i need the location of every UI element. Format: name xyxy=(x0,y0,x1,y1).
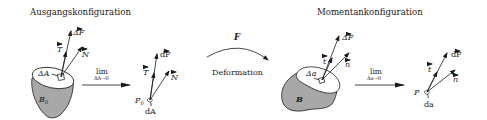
label-delta-a: Δa xyxy=(305,69,317,78)
traction-vector-T-point xyxy=(150,73,154,100)
label-P: P xyxy=(413,88,420,97)
reference-point xyxy=(147,98,152,106)
normal-vector-N-point xyxy=(150,71,169,100)
title-reference-configuration: Ausgangskonfiguration xyxy=(29,7,132,17)
label-t: t xyxy=(323,57,327,66)
label-deformation: Deformation xyxy=(212,68,263,77)
label-n: n xyxy=(345,60,350,69)
limit-subscript-reference: ΔA→0 xyxy=(94,75,109,81)
label-T: T xyxy=(57,45,63,54)
label-da: da xyxy=(424,100,434,109)
label-deformation-map-F: F xyxy=(233,32,241,42)
label-P0: P0 xyxy=(134,96,144,106)
deformation-arrow xyxy=(207,48,268,60)
label-T-point: T xyxy=(143,68,149,77)
limit-subscript-current: Δa→0 xyxy=(367,75,381,81)
label-t-point: t xyxy=(428,65,432,74)
label-N: N xyxy=(81,50,90,59)
traction-vector-t-point xyxy=(427,72,437,92)
label-delta-A: ΔA xyxy=(37,69,50,78)
continuum-mechanics-diagram: Ausgangskonfiguration Momentankonfigurat… xyxy=(0,0,487,120)
label-body-B: B xyxy=(295,94,303,104)
label-n-point: n xyxy=(453,75,458,84)
label-dA: dA xyxy=(145,107,156,116)
label-N-point: N xyxy=(170,73,179,82)
title-current-configuration: Momentankonfiguration xyxy=(317,7,423,17)
current-point xyxy=(424,90,429,98)
